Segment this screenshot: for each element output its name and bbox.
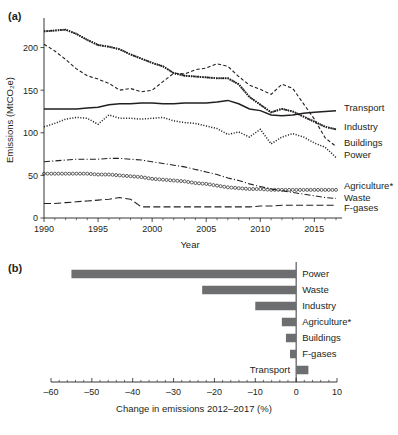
x-tick-label: –30	[166, 387, 181, 397]
series-agriculture-	[44, 115, 336, 158]
legend-label-buildings: Buildings	[344, 137, 383, 148]
x-tick-label: 0	[294, 387, 299, 397]
bar-waste	[202, 286, 296, 295]
x-tick-label: –20	[207, 387, 222, 397]
x-tick-label: 2010	[250, 224, 270, 234]
x-tick-label: 1995	[88, 224, 108, 234]
bar-label-transport: Transport	[250, 364, 291, 375]
bar-agriculture-	[282, 318, 296, 327]
x-tick-label: 2000	[142, 224, 162, 234]
bar-f-gases	[290, 350, 296, 359]
bar-chart-change: –60–50–40–30–20–10010Change in emissions…	[0, 250, 398, 435]
series-f-gases-lower	[44, 198, 336, 207]
x-tick-label: 2005	[196, 224, 216, 234]
bar-power	[71, 270, 296, 279]
y-tick-label: 0	[33, 213, 38, 223]
bar-label-power: Power	[302, 268, 329, 279]
legend-label-transport: Transport	[344, 102, 385, 113]
x-axis-title: Year	[180, 239, 199, 250]
legend-label-industry: Industry	[344, 121, 378, 132]
bar-label-f-gases: F-gases	[302, 348, 337, 359]
x-tick-label: 2015	[304, 224, 324, 234]
y-tick-label: 100	[23, 128, 38, 138]
x-tick-label: –60	[43, 387, 58, 397]
y-tick-label: 200	[23, 43, 38, 53]
series-transport	[44, 100, 336, 115]
y-tick-label: 50	[28, 171, 38, 181]
x-tick-label: –40	[125, 387, 140, 397]
x-tick-label: –50	[84, 387, 99, 397]
bar-transport	[296, 366, 308, 375]
x-axis-title: Change in emissions 2012–2017 (%)	[116, 403, 272, 414]
bar-label-buildings: Buildings	[302, 332, 341, 343]
legend-label-power: Power	[344, 149, 371, 160]
x-tick-label: 1990	[34, 224, 54, 234]
bar-label-agriculture-: Agriculture*	[302, 316, 351, 327]
y-axis-title: Emissions (MtCO₂e)	[4, 77, 15, 163]
legend-label-f-gases: F-gases	[344, 202, 379, 213]
bar-buildings	[286, 334, 296, 343]
bar-label-industry: Industry	[302, 300, 336, 311]
bar-industry	[255, 302, 296, 311]
x-tick-label: –10	[248, 387, 263, 397]
x-tick-label: 10	[332, 387, 342, 397]
figure-container: (a) (b) 05010015020019901995200020052010…	[0, 0, 398, 435]
bar-label-waste: Waste	[302, 284, 329, 295]
line-chart-emissions: 050100150200199019952000200520102015Year…	[0, 0, 398, 260]
legend-label-agriculture-: Agriculture*	[344, 180, 393, 191]
series-buildings	[44, 44, 336, 146]
series-waste	[44, 158, 336, 198]
y-tick-label: 150	[23, 86, 38, 96]
series-f-gases	[43, 172, 338, 191]
